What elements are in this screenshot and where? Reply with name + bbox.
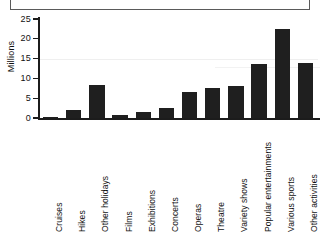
x-axis-tick-label: Variety shows <box>239 178 249 232</box>
y-axis-tick <box>33 38 38 39</box>
bar <box>275 29 290 118</box>
x-axis-tick-label: Other holidays <box>100 176 110 232</box>
bar <box>43 117 58 118</box>
y-axis-tick-label: 5 <box>5 94 31 103</box>
bar <box>112 115 127 118</box>
y-axis-tick <box>33 58 38 59</box>
x-axis-tick-label: Other activities <box>309 174 319 232</box>
y-axis-title: Millions <box>7 30 16 84</box>
x-axis-tick-label: Various sports <box>286 177 296 232</box>
y-axis-tick <box>33 18 38 19</box>
x-axis-tick-label: Exhibitions <box>147 190 157 232</box>
y-axis-tick <box>33 98 38 99</box>
y-axis-tick-label: 25 <box>5 15 31 24</box>
x-axis-tick-label: Popular entertainments <box>263 142 273 232</box>
y-axis-tick <box>33 117 38 118</box>
y-axis-tick-labels: 2520151050 <box>0 0 31 233</box>
x-axis-tick-label: Hikes <box>77 210 87 232</box>
y-axis-tick-label: 0 <box>5 114 31 123</box>
x-axis-tick-label: Films <box>124 211 134 232</box>
x-axis-tick-labels: CruisesHikesOther holidaysFilmsExhibitio… <box>39 120 317 233</box>
x-axis-tick-label: Operas <box>193 204 203 232</box>
plot-area <box>39 19 317 118</box>
x-axis-tick-label: Cruises <box>54 202 64 232</box>
bar <box>251 64 266 118</box>
bar <box>182 92 197 118</box>
bar <box>89 85 104 118</box>
bar <box>298 63 313 118</box>
bar <box>136 112 151 118</box>
bar-chart-figure: 2520151050 Millions CruisesHikesOther ho… <box>0 0 322 233</box>
bar <box>205 88 220 118</box>
bar <box>159 108 174 118</box>
x-axis-tick-label: Concerts <box>170 197 180 232</box>
bar <box>66 110 81 118</box>
bar <box>228 86 243 118</box>
x-axis-tick-label: Theatre <box>216 202 226 232</box>
y-axis-tick <box>33 78 38 79</box>
caption-box <box>10 0 310 10</box>
